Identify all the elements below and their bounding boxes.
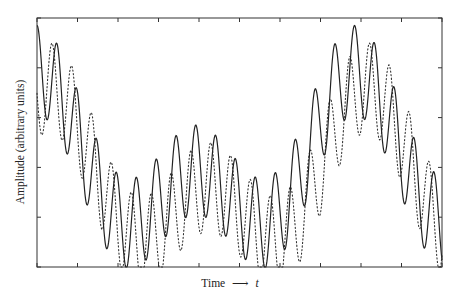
x-axis-variable: t xyxy=(255,277,258,289)
x-axis-label: Time ⟶ t xyxy=(0,276,460,290)
series-dotted-line xyxy=(37,43,442,267)
x-axis-label-text: Time xyxy=(201,277,225,289)
series-solid-line xyxy=(37,25,442,267)
y-axis-label: Amplitude (arbitrary units) xyxy=(14,80,26,205)
chart-plot xyxy=(0,0,460,302)
right-arrow-icon: ⟶ xyxy=(232,276,249,290)
